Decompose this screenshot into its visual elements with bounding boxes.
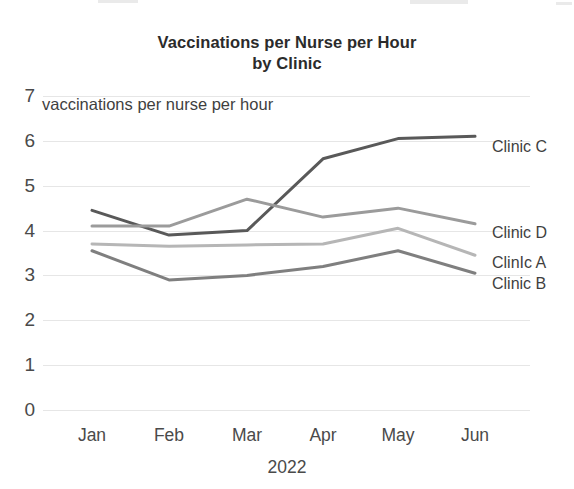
y-axis-tick-label: 2 [5,310,35,329]
y-axis-tick-label: 5 [5,176,35,195]
series-label-clinic-d: Clinic D [492,225,547,241]
line-chart: Vaccinations per Nurse per Hour by Clini… [0,0,574,489]
y-axis-tick-label: 0 [5,400,35,419]
x-axis-tick-label: Jun [435,425,515,446]
chart-title-line-1: Vaccinations per Nurse per Hour [0,32,574,53]
chart-title-line-2: by Clinic [0,53,574,74]
y-axis-tick-label: 1 [5,355,35,374]
x-axis-tick-label: Jan [52,425,132,446]
x-axis-tick-label: May [358,425,438,446]
x-axis-tick-label: Feb [129,425,209,446]
x-axis-title: 2022 [0,457,574,478]
series-label-clinic-b: Clinic B [492,276,546,292]
series-line [92,199,475,226]
series-line [92,136,475,235]
y-axis-tick-label: 3 [5,265,35,284]
crop-artifact-center [410,0,468,4]
series-label-clinic-a: ClinIc A [492,255,546,271]
x-axis-tick-label: Mar [207,425,287,446]
series-line [92,251,475,280]
y-axis-tick-label: 7 [5,86,35,105]
crop-artifact-left [98,0,138,3]
series-label-clinic-c: Clinic C [492,139,547,155]
plot-area [43,96,530,410]
gridline [43,410,530,411]
y-axis-tick-label: 4 [5,221,35,240]
chart-title: Vaccinations per Nurse per Hour by Clini… [0,32,574,74]
x-axis-tick-label: Apr [283,425,363,446]
series-lines [43,96,530,410]
y-axis-tick-label: 6 [5,131,35,150]
crop-artifact-right [556,2,572,5]
series-line [92,228,475,255]
